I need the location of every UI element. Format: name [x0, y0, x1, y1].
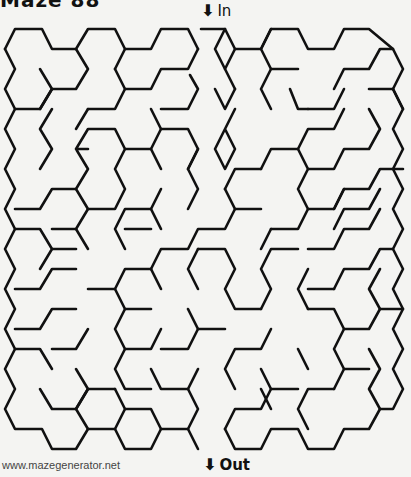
maze-wall [151, 209, 261, 269]
maze-wall [308, 309, 403, 329]
maze-wall [225, 189, 235, 209]
maze-wall [188, 249, 198, 289]
maze-wall [151, 109, 161, 129]
maze-wall [271, 209, 308, 229]
maze-wall [15, 349, 52, 369]
exit-label: Out [219, 456, 250, 474]
maze-wall [161, 75, 198, 109]
maze-wall [40, 69, 52, 109]
maze-wall [334, 189, 344, 209]
maze-wall [115, 269, 151, 289]
maze-wall [334, 49, 393, 89]
maze-grid[interactable] [0, 0, 411, 477]
maze-wall [188, 309, 198, 329]
maze-wall [334, 329, 344, 389]
maze-wall [201, 29, 403, 449]
maze-wall [393, 89, 403, 109]
maze-wall [115, 349, 151, 389]
maze-wall [5, 29, 198, 49]
maze-wall [261, 249, 298, 309]
maze-wall [161, 329, 225, 349]
maze-wall [151, 369, 198, 429]
maze-wall [88, 89, 125, 109]
maze-wall [225, 169, 261, 189]
maze-wall [151, 209, 161, 229]
maze-wall [298, 349, 308, 369]
maze-wall [52, 209, 88, 229]
maze-wall [15, 309, 76, 329]
maze-wall [115, 49, 198, 89]
maze-wall [290, 89, 308, 109]
maze-wall [298, 149, 403, 209]
maze-wall [125, 129, 198, 169]
maze-exit: ⬇ Out [203, 455, 250, 474]
maze-wall [52, 329, 88, 349]
maze-wall [215, 29, 225, 69]
maze-wall [225, 389, 298, 429]
maze-wall [151, 149, 161, 169]
maze-wall [225, 49, 235, 89]
maze-wall [76, 109, 88, 129]
maze-wall [52, 49, 88, 89]
footer-credit: www.mazegenerator.net [2, 459, 120, 471]
maze-wall [15, 229, 52, 269]
maze-wall [76, 229, 88, 249]
maze-wall [125, 409, 161, 429]
maze-wall [261, 229, 271, 249]
maze-wall [308, 109, 380, 169]
maze-wall [115, 389, 125, 429]
maze-wall [215, 89, 235, 109]
maze-wall [308, 89, 344, 109]
maze-wall [198, 249, 261, 309]
maze-wall [188, 149, 198, 209]
maze-wall [225, 329, 271, 389]
down-arrow-icon: ⬇ [203, 455, 216, 474]
maze-wall [76, 369, 88, 429]
maze-wall [261, 29, 298, 69]
maze-wall [369, 269, 380, 309]
maze-wall [151, 269, 161, 289]
maze-wall [298, 269, 308, 309]
maze-wall [298, 389, 334, 429]
maze-wall [15, 269, 76, 289]
maze-wall [261, 369, 271, 389]
maze-wall [115, 49, 125, 69]
maze-wall [76, 129, 125, 209]
maze-wall [369, 349, 380, 409]
maze-wall [334, 249, 393, 289]
maze-wall [188, 369, 198, 389]
maze-wall [15, 89, 52, 109]
maze-wall [40, 109, 52, 169]
maze-wall [308, 209, 380, 249]
maze-wall [215, 109, 235, 169]
maze-wall [15, 189, 76, 209]
maze-wall [88, 289, 161, 349]
maze-wall [261, 69, 271, 109]
